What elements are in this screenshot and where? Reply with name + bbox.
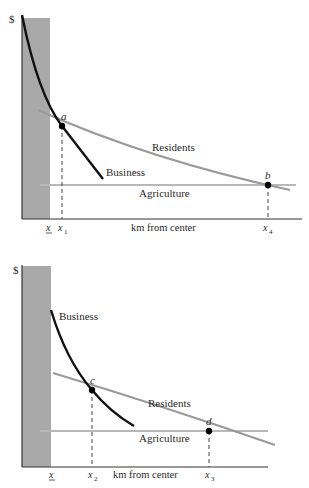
point-a [59,123,65,129]
tick-x2-sub: 2 [94,475,98,483]
business-label: Business [59,310,98,322]
bottom-figure: $ c d Business Residents Agriculture x x… [13,264,275,483]
point-d [206,428,212,434]
tick-x1-sub: 1 [64,228,68,236]
point-b-label: b [265,169,271,181]
top-figure: $ a b Residents Business Agriculture x x… [9,13,302,236]
x-axis-label: km from center [113,469,178,480]
central-zone-band [22,18,50,219]
bid-rent-diagrams: $ a b Residents Business Agriculture x x… [0,0,309,488]
point-a-label: a [61,110,67,122]
tick-x4: x [262,222,268,233]
tick-x1: x [57,222,63,233]
tick-xbar: x [45,222,51,233]
central-zone-band [22,266,51,467]
tick-x4-sub: 4 [269,228,273,236]
point-d-label: d [206,415,212,427]
point-b [265,182,271,188]
tick-xbar: x [48,469,54,480]
point-c-label: c [90,374,95,386]
business-label: Business [106,166,145,178]
agriculture-label: Agriculture [139,432,190,444]
residents-label: Residents [148,397,191,409]
business-curve [51,310,134,426]
y-axis-label: $ [9,13,15,25]
tick-x3-sub: 3 [211,475,215,483]
x-axis-label: km from center [131,222,196,233]
y-axis-label: $ [13,264,19,276]
tick-x2: x [87,469,93,480]
agriculture-label: Agriculture [139,187,190,199]
residents-label: Residents [152,141,195,153]
tick-x3: x [204,469,210,480]
point-c [89,387,95,393]
